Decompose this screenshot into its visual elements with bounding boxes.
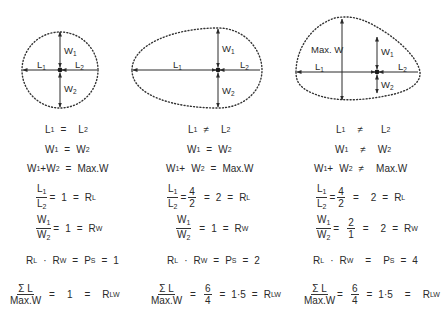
label-max-w: Max. W — [311, 44, 343, 55]
label-l2: L2 — [75, 59, 84, 71]
eq-l1-l2: L1 ≠ L2 — [336, 124, 390, 135]
eq-rl: L1L2 = 42 = 2 = RL — [314, 183, 405, 212]
label-l2: L2 — [398, 61, 407, 73]
eq-ps: RL · RW = PS = 4 — [313, 255, 418, 266]
eq-w1-w2: W1 = W2 — [45, 144, 90, 155]
circle-shape: L1 L2 W1 W2 — [22, 32, 98, 108]
label-w1: W1 — [222, 43, 235, 55]
eq-w1-w2: W1 = W2 — [187, 144, 232, 155]
eq-w1-w2: W1 ≠ W2 — [335, 144, 391, 155]
eq-rw: W1W2 = 21 = 2 = RW — [314, 214, 418, 243]
eq-l1-l2: L1 ≠ L2 — [188, 124, 230, 135]
label-w2: W2 — [381, 79, 394, 91]
label-l1: L1 — [173, 59, 182, 71]
eq-ps: RL · RW = PS = 2 — [167, 255, 260, 266]
eq-rlw: Σ LMax.W = 1 = RLW — [8, 283, 120, 306]
label-l2: L2 — [240, 59, 249, 71]
eq-rw: W1W2 = 1 = RW — [174, 214, 248, 243]
label-w2: W2 — [222, 85, 235, 97]
eq-w-sum: W1 + W2 = Max.W — [27, 163, 109, 174]
eq-w-sum: W1 + W2 = Max.W — [166, 163, 254, 174]
eq-rlw: Σ LMax.W = 64 = 1·5 = RLW — [302, 283, 440, 306]
label-w2: W2 — [64, 83, 77, 95]
shapes-diagram: L1 L2 W1 W2 L1 L2 W1 W2 Max. W L1 L2 W1 … — [0, 0, 443, 324]
eq-w-sum: W1 + W2 ≠ Max.W — [314, 163, 407, 174]
eq-rl: L1L2 = 42 = 2 = RL — [165, 183, 250, 212]
egg-shape: L1 L2 W1 W2 — [132, 28, 262, 108]
label-l1: L1 — [315, 61, 324, 73]
eq-rlw: Σ LMax.W = 64 = 1·5 = RLW — [149, 283, 281, 306]
label-l1: L1 — [37, 59, 46, 71]
eq-ps: RL · RW = PS = 1 — [26, 255, 119, 266]
label-w1: W1 — [64, 45, 77, 57]
label-w1: W1 — [381, 46, 394, 58]
irregular-shape: Max. W L1 L2 W1 W2 — [296, 17, 420, 100]
eq-rl: L1L2 = 1 = RL — [34, 183, 96, 212]
eq-rw: W1W2 = 1 = RW — [34, 214, 102, 243]
eq-l1-l2: L1 = L2 — [45, 124, 88, 135]
